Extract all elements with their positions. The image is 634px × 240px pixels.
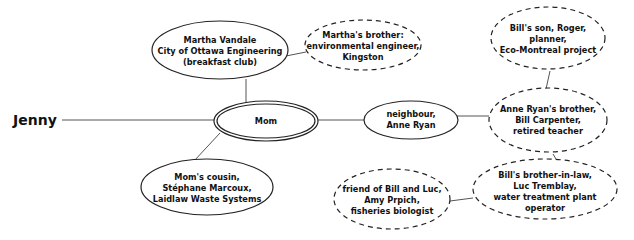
node-martha-vandale[interactable]: Martha Vandale City of Ottawa Engineerin… (152, 21, 288, 79)
node-friend-amy-prpich[interactable]: friend of Bill and Luc, Amy Prpich, fish… (334, 169, 450, 229)
node-text: environmental engineer, (307, 41, 420, 51)
node-text: Anne Ryan's brother, (500, 104, 596, 114)
node-text: Kingston (342, 52, 383, 62)
node-bills-brother-in-law-luc[interactable]: Bill's brother-in-law, Luc Tremblay, wat… (473, 159, 617, 219)
node-text: Luc Tremblay, (513, 181, 576, 191)
node-text: Anne Ryan (386, 120, 435, 130)
node-text: Bill Carpenter, (515, 115, 581, 125)
node-text: operator (525, 203, 566, 213)
node-text: Eco-Montreal project (500, 45, 596, 55)
edge-mom-moms-cousin (194, 133, 220, 161)
node-text: City of Ottawa Engineering (158, 46, 283, 56)
node-text: fisheries biologist (351, 206, 434, 216)
root-label-jenny: Jenny (12, 112, 57, 128)
node-text: (breakfast club) (183, 57, 257, 67)
node-text: Mom's cousin, (174, 172, 239, 182)
node-text: retired teacher (513, 126, 584, 136)
node-text: Laidlaw Waste Systems (153, 194, 262, 204)
edge-annes-brother-bills-son (546, 71, 550, 89)
node-text: Bill's brother-in-law, (498, 170, 592, 180)
node-text: Martha's brother: (322, 30, 403, 40)
node-text: Mom (255, 116, 277, 126)
node-moms-cousin[interactable]: Mom's cousin, Stéphane Marcoux, Laidlaw … (141, 159, 273, 215)
node-marthas-brother[interactable]: Martha's brother: environmental engineer… (305, 20, 421, 70)
node-text: planner, (529, 34, 566, 44)
network-diagram: Jenny Mom Martha Vandale City of Ottawa … (0, 0, 634, 240)
node-text: Martha Vandale (184, 35, 257, 45)
node-text: Amy Prpich, (364, 195, 420, 205)
node-text: neighbour, (386, 109, 435, 119)
node-text: water treatment plant (494, 192, 597, 202)
node-neighbour-anne-ryan[interactable]: neighbour, Anne Ryan (364, 101, 458, 139)
node-annes-brother-bill-carpenter[interactable]: Anne Ryan's brother, Bill Carpenter, ret… (489, 88, 607, 152)
node-bills-son-roger[interactable]: Bill's son, Roger, planner, Eco-Montreal… (491, 7, 605, 69)
node-text: Stéphane Marcoux, (162, 183, 251, 193)
node-text: friend of Bill and Luc, (342, 184, 441, 194)
node-mom[interactable]: Mom (214, 101, 318, 141)
edge-martha-marthas-brother (286, 52, 306, 56)
edge-bills-brother-in-law-friend (450, 198, 473, 201)
node-text: Bill's son, Roger, (510, 23, 586, 33)
